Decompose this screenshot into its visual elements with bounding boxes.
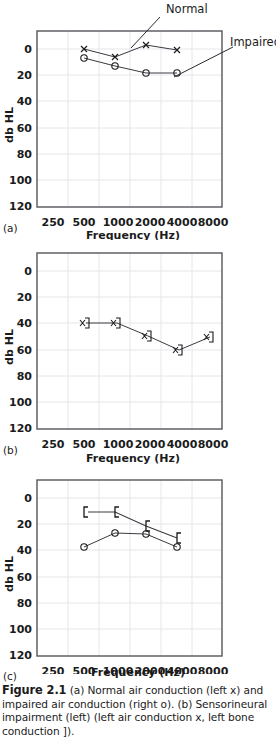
gridlines-b bbox=[37, 253, 222, 429]
x-axis-ticks-b: 250 500 1000 2000 4000 8000 bbox=[42, 438, 229, 451]
x-tick: 250 bbox=[42, 216, 65, 229]
y-tick: 120 bbox=[9, 200, 32, 213]
series-line-b bbox=[86, 323, 210, 350]
y-axis-title-b: db HL bbox=[3, 329, 16, 365]
panel-letter-b: (b) bbox=[3, 444, 18, 456]
x-tick: 8000 bbox=[198, 438, 229, 451]
y-tick: 0 bbox=[24, 43, 32, 56]
y-tick: 80 bbox=[17, 597, 33, 610]
leader-line-normal bbox=[131, 17, 160, 48]
gridlines-c bbox=[37, 480, 222, 656]
x-axis-title-c: Frequency (Hz) bbox=[0, 666, 276, 679]
y-tick: 100 bbox=[9, 174, 32, 187]
y-tick: 100 bbox=[9, 396, 32, 409]
x-tick: 1000 bbox=[103, 216, 134, 229]
annotation-impaired: Impaired bbox=[230, 35, 276, 49]
y-tick: 60 bbox=[17, 122, 33, 135]
figure-caption: Figure 2.1 (a) Normal air conduction (le… bbox=[2, 684, 274, 738]
y-tick: 40 bbox=[17, 544, 33, 557]
chart-panel-c: 0 20 40 60 80 100 120 db HL 250 500 1000… bbox=[0, 472, 276, 674]
panel-letter-a: (a) bbox=[3, 222, 18, 234]
x-tick: 8000 bbox=[198, 216, 229, 229]
figure-caption-label: Figure 2.1 bbox=[2, 683, 66, 697]
x-tick: 1000 bbox=[103, 438, 134, 451]
leader-line-impaired bbox=[174, 47, 233, 77]
y-tick: 40 bbox=[17, 317, 33, 330]
x-tick: 2000 bbox=[135, 438, 166, 451]
y-axis-title-c: db HL bbox=[3, 556, 16, 592]
x-axis-ticks-a: 250 500 1000 2000 4000 8000 bbox=[42, 216, 229, 229]
gridlines-a bbox=[37, 31, 222, 207]
y-tick: 60 bbox=[17, 571, 33, 584]
y-tick: 20 bbox=[17, 69, 33, 82]
y-tick: 0 bbox=[24, 265, 32, 278]
y-tick: 0 bbox=[24, 492, 32, 505]
x-tick: 4000 bbox=[167, 438, 198, 451]
y-tick: 100 bbox=[9, 623, 32, 636]
x-tick: 500 bbox=[73, 438, 96, 451]
y-tick: 20 bbox=[17, 518, 33, 531]
audiogram-plot-a: 0 20 40 60 80 100 120 db HL 250 500 1000… bbox=[0, 0, 276, 240]
y-tick: 120 bbox=[9, 422, 32, 435]
y-tick: 20 bbox=[17, 291, 33, 304]
x-axis-title-a: Frequency (Hz) bbox=[86, 229, 180, 240]
x-tick: 2000 bbox=[135, 216, 166, 229]
y-tick: 80 bbox=[17, 148, 33, 161]
x-axis-title-b: Frequency (Hz) bbox=[86, 452, 180, 465]
x-tick: 4000 bbox=[167, 216, 198, 229]
y-tick: 60 bbox=[17, 344, 33, 357]
y-tick: 120 bbox=[9, 649, 32, 662]
x-tick: 500 bbox=[73, 216, 96, 229]
y-axis-title-a: db HL bbox=[3, 107, 16, 143]
x-tick: 250 bbox=[42, 438, 65, 451]
audiogram-plot-c: 0 20 40 60 80 100 120 db HL 250 500 1000… bbox=[0, 472, 276, 674]
y-tick: 80 bbox=[17, 370, 33, 383]
chart-panel-b: 0 20 40 60 80 100 120 db HL 250 500 1000… bbox=[0, 240, 276, 472]
audiogram-plot-b: 0 20 40 60 80 100 120 db HL 250 500 1000… bbox=[0, 240, 276, 472]
y-tick: 40 bbox=[17, 95, 33, 108]
series-line-bone-c bbox=[88, 512, 177, 538]
annotation-normal: Normal bbox=[166, 2, 208, 16]
chart-panel-a: 0 20 40 60 80 100 120 db HL 250 500 1000… bbox=[0, 0, 276, 240]
